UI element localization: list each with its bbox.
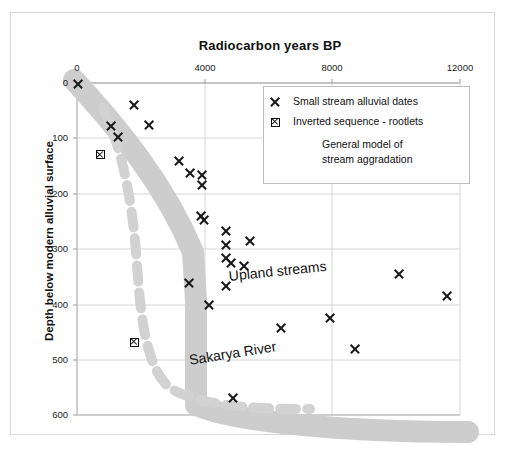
xtick-label-12000: 12000 [435, 62, 485, 73]
data-point-x [195, 178, 209, 192]
data-point-x [392, 267, 406, 281]
data-point-x [197, 213, 211, 227]
data-point-x [182, 276, 196, 290]
data-point-square [96, 150, 105, 159]
legend-entry-general-model-line2: stream aggradation [322, 152, 412, 167]
data-point-square [130, 338, 139, 347]
data-point-x [243, 234, 257, 248]
xtick-label-0: 0 [52, 62, 102, 73]
ytick-label-0: 0 [38, 77, 68, 88]
legend-entry-small-stream: Small stream alluvial dates [293, 95, 418, 107]
data-point-x [219, 238, 233, 252]
legend-x-marker-icon [268, 95, 282, 109]
data-point-x [226, 391, 240, 405]
data-point-x [111, 130, 125, 144]
data-point-x [71, 77, 85, 91]
legend: Small stream alluvial dates Inverted seq… [263, 86, 470, 184]
data-point-x [127, 98, 141, 112]
data-point-x [219, 224, 233, 238]
legend-square-marker-icon [271, 118, 280, 127]
xtick-label-8000: 8000 [307, 62, 357, 73]
xtick-label-4000: 4000 [180, 62, 230, 73]
legend-entry-general-model-line1: General model of [322, 137, 412, 152]
y-axis-title: Depth below modern alluvial surface [43, 126, 55, 356]
data-point-x [348, 342, 362, 356]
figure-container: Radiocarbon years BP [0, 0, 514, 456]
legend-entry-general-model: General model of stream aggradation [322, 137, 412, 167]
data-point-x [440, 289, 454, 303]
legend-entry-inverted-sequence: Inverted sequence - rootlets [293, 115, 423, 127]
data-point-x [323, 311, 337, 325]
data-point-x [202, 298, 216, 312]
data-point-x [274, 321, 288, 335]
data-point-x [142, 118, 156, 132]
ytick-label-600: 600 [38, 409, 68, 420]
